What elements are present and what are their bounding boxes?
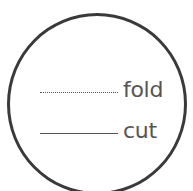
legend-diagram: fold cut	[0, 0, 193, 191]
solid-line-icon	[40, 133, 118, 134]
legend-item-fold: fold	[40, 77, 163, 103]
legend-label-fold: fold	[123, 77, 163, 103]
legend-item-cut: cut	[40, 118, 157, 144]
dotted-line-icon	[40, 92, 118, 93]
legend-label-cut: cut	[123, 118, 157, 144]
